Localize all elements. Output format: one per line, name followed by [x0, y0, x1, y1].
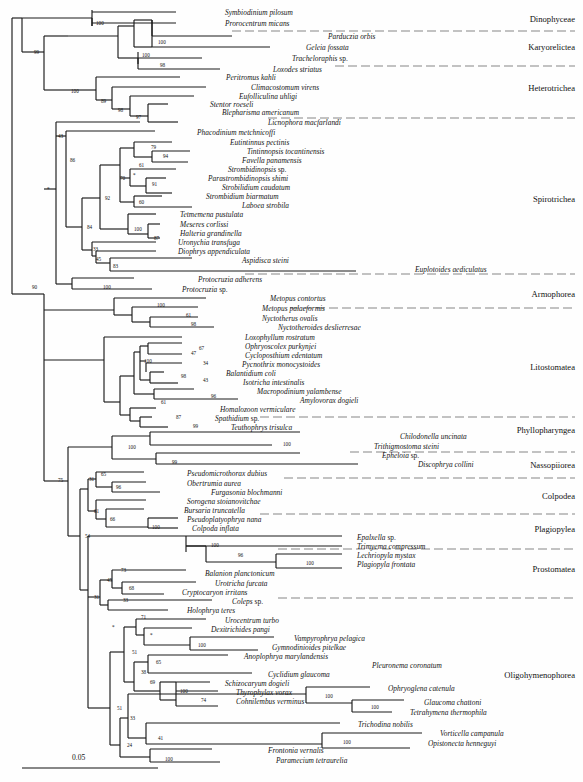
bootstrap-value: 54: [85, 533, 90, 539]
clade-label-nassopiiorea: Nassopiiorea: [530, 460, 575, 470]
bootstrap-value: 100: [157, 302, 165, 308]
taxon-label-vorticella-campanula: Vorticella campanula: [440, 730, 504, 738]
bootstrap-value: 69: [150, 679, 155, 685]
bootstrap-value: 43: [203, 377, 208, 383]
taxon-rank-suffix: sp.: [339, 54, 347, 63]
bootstrap-value: 60: [139, 199, 144, 205]
taxon-label-ophryoscolex-purkynjei: Ophryoscolex purkynjei: [245, 343, 316, 351]
bootstrap-value: 99: [193, 423, 198, 429]
taxon-label-cyclidium-glaucoma: Cyclidium glaucoma: [268, 671, 330, 679]
taxon-label-phacodinium-metchnicoffi: Phacodinium metchnicoffi: [197, 129, 275, 137]
taxon-label-teuthophrys-trisulca: Teuthophrys trisulca: [231, 424, 292, 432]
bootstrap-value: 99: [34, 49, 39, 55]
taxon-label-metopus-palaeformis: Metopus palaeformis: [262, 305, 325, 313]
taxon-label-sorogena-stoianovitchae: Sorogena stoianovitchae: [187, 498, 260, 506]
taxon-label-thyrophylax-vorax: Thyrophylax vorax: [236, 689, 292, 697]
taxon-label-epalxella-sp: Epalxella sp.: [357, 534, 396, 542]
taxon-label-uronychia-transfuga: Uronychia transfuga: [178, 239, 240, 247]
taxon-label-trithigmostoma-steini: Trithigmostoma steini: [374, 443, 439, 451]
taxon-label-diophrys-appendiculata: Diophrys appendiculata: [178, 248, 250, 256]
taxon-label-isotricha-intestinalis: Isotricha intestinalis: [243, 379, 304, 387]
bootstrap-value: 41: [158, 735, 163, 741]
bootstrap-value: 100: [371, 704, 379, 710]
taxon-label-holophrya-teres: Holophrya teres: [187, 607, 235, 615]
bootstrap-value: 65: [101, 471, 106, 477]
taxon-label-trichodina-nobilis: Trichodina nobilis: [358, 721, 413, 729]
phylogenetic-tree-figure: 0.05 Symbiodinium pilosumProrocentrum mi…: [0, 0, 583, 782]
bootstrap-value: 33: [93, 246, 98, 252]
taxon-label-metopus-contortus: Metopus contortus: [270, 295, 326, 303]
bootstrap-value: 100: [144, 358, 152, 364]
taxon-label-trimyema-compressum: Trimyema compressum: [357, 543, 425, 551]
taxon-label-frontonia-vernalis: Frontonia vernalis: [268, 747, 324, 755]
bootstrap-value: 43: [58, 133, 63, 139]
clade-label-colpodea: Colpodea: [542, 491, 575, 501]
bootstrap-value: 100: [103, 284, 111, 290]
taxon-label-pycnothrix-monocystoides: Pycnothrix monocystoides: [242, 361, 320, 369]
taxon-label-parastrombidinopsis-shimi: Parastrombidinopsis shimi: [208, 175, 288, 183]
taxon-label-ophryoglena-catenula: Ophryoglena catenula: [388, 685, 455, 693]
taxon-label-plagiopyla-frontata: Plagiopyla frontata: [357, 561, 415, 569]
bootstrap-value: 100: [325, 693, 333, 699]
bootstrap-value: 91: [152, 181, 157, 187]
bootstrap-value: 100: [283, 441, 291, 447]
bootstrap-value: 45: [107, 577, 112, 583]
bootstrap-value: 87: [176, 414, 181, 420]
bootstrap-value: 61: [161, 399, 166, 405]
taxon-label-meseres-corlissi: Meseres corlissi: [180, 221, 228, 229]
taxon-label-paramecium-tetraurelia: Paramecium tetraurelia: [276, 757, 347, 765]
taxon-label-halteria-grandinella: Halteria grandinella: [180, 230, 242, 238]
taxon-label-epheloia-sp: Epheloia sp.: [382, 452, 419, 460]
taxon-label-schizocaryum-dogieli: Schizocaryum dogieli: [225, 680, 289, 688]
taxon-label-furgasonia-blochmanni: Furgasonia blochmanni: [211, 489, 282, 497]
bootstrap-value: 24: [127, 742, 132, 748]
taxon-label-cryptocaryon-irritans: Cryptocaryon irritans: [182, 589, 248, 597]
taxon-label-tetmemena-pustulata: Tetmemena pustulata: [180, 211, 243, 219]
bootstrap-value: 71: [141, 614, 146, 620]
bootstrap-value: 100: [306, 560, 314, 566]
taxon-label-obertrumia-aurea: Obertrumia aurea: [187, 480, 241, 488]
bootstrap-value: 94: [163, 153, 168, 159]
taxon-label-protocruzia-sp: Protocruzia sp.: [182, 286, 228, 294]
taxon-label-colpoda-inflata: Colpoda inflata: [192, 525, 239, 533]
bootstrap-value: 90: [32, 284, 37, 290]
taxon-label-spathidium-sp: Spathidium sp.: [215, 415, 259, 423]
taxon-label-discophrya-collini: Discophrya collini: [418, 461, 474, 469]
tree-branches: [12, 10, 422, 762]
taxon-label-gymnodinioides-pitelkae: Gymnodinioides pitelkae: [272, 644, 346, 652]
taxon-label-tetrahymena-thermophila: Tetrahymena thermophila: [410, 709, 487, 717]
bootstrap-value: 84: [87, 224, 92, 230]
bootstrap-value: 99: [172, 459, 177, 465]
taxon-label-climacostomum-virens: Climacostomum virens: [251, 84, 319, 92]
taxon-label-strobilidium-caudatum: Strobilidium caudatum: [222, 184, 290, 192]
clade-label-armophorea: Armophorea: [532, 289, 575, 299]
bootstrap-value: 100: [134, 226, 142, 232]
bootstrap-value: 47: [191, 350, 196, 356]
bootstrap-value: 100: [343, 739, 351, 745]
bootstrap-value: 100: [142, 52, 150, 58]
taxon-label-pseudomicrothorax-dubius: Pseudomicrothorax dubius: [187, 470, 267, 478]
taxon-label-geleia-fossata: Geleia fossata: [306, 44, 349, 52]
taxon-label-aspidisca-steini: Aspidisca steini: [242, 257, 289, 265]
taxon-label-peritromus-kahli: Peritromus kahli: [226, 74, 276, 82]
taxon-label-laboea-strobila: Laboea strobila: [242, 202, 289, 210]
taxon-label-glaucoma-chattoni: Glaucoma chattoni: [424, 699, 481, 707]
clade-label-oligohymenophorea: Oligohymenophorea: [504, 670, 575, 680]
taxon-label-symbiodinium-pilosum: Symbiodinium pilosum: [225, 9, 293, 17]
taxon-label-chilodonella-uncinata: Chilodonella uncinata: [400, 433, 467, 441]
taxon-rank-suffix: sp.: [255, 597, 263, 606]
taxon-rank-suffix: sp.: [219, 285, 227, 294]
bootstrap-value: 100: [180, 688, 188, 694]
bootstrap-value: 67: [199, 345, 204, 351]
bootstrap-value: 33: [123, 597, 128, 603]
bootstrap-value: 100: [158, 39, 166, 45]
taxon-label-prorocentrum-micans: Prorocentrum micans: [225, 20, 290, 28]
taxon-label-protocruzia-adherens: Protocruzia adherens: [198, 276, 262, 284]
bootstrap-value: 31: [94, 594, 99, 600]
taxon-label-blepharisma-americanum: Blepharisma americanum: [222, 109, 299, 117]
bootstrap-value: 89: [101, 98, 106, 104]
taxon-label-pseudoplatyophrya-nana: Pseudoplatyophrya nana: [187, 516, 262, 524]
taxon-label-urotricha-furcata: Urotricha furcata: [215, 580, 268, 588]
clade-label-dinophyceae: Dinophyceae: [530, 14, 575, 24]
bootstrap-value: 61: [139, 162, 144, 168]
